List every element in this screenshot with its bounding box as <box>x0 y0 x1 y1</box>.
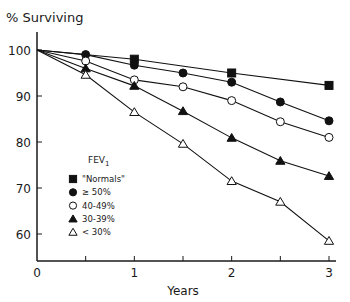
legend-label-1: ≥ 50% <box>82 187 111 197</box>
x-axis-label: Years <box>166 284 199 298</box>
series-line-2 <box>37 50 329 137</box>
data-point-3 <box>178 107 187 115</box>
legend-title-text: FEV <box>88 155 106 165</box>
legend-marker-4 <box>69 228 77 235</box>
data-point-1 <box>276 98 284 106</box>
x-tick-label: 0 <box>33 266 41 280</box>
legend-label-0: "Normals" <box>82 174 125 184</box>
survival-chart: % Surviving Years 10090807060 0123 FEV1 … <box>0 0 350 302</box>
data-point-0 <box>228 69 236 77</box>
data-point-3 <box>227 133 236 141</box>
legend-label-2: 40-49% <box>82 201 115 211</box>
data-point-2 <box>179 83 187 91</box>
y-tick-label: 100 <box>8 44 31 58</box>
x-tick-label: 3 <box>325 266 333 280</box>
legend-marker-2 <box>69 202 76 209</box>
data-point-2 <box>325 133 333 141</box>
data-point-2 <box>276 118 284 126</box>
data-point-1 <box>130 61 138 69</box>
x-tick-label: 2 <box>228 266 236 280</box>
data-point-1 <box>179 69 187 77</box>
y-tick-label: 90 <box>16 90 31 104</box>
legend-title: FEV1 <box>88 155 110 168</box>
legend-title-subscript: 1 <box>105 160 109 168</box>
data-point-4 <box>130 108 139 116</box>
y-tick-label: 80 <box>16 136 31 150</box>
y-tick-label: 60 <box>16 228 31 242</box>
legend-marker-1 <box>69 189 76 196</box>
y-tick-label: 70 <box>16 182 31 196</box>
data-point-3 <box>276 156 285 164</box>
data-point-1 <box>325 117 333 125</box>
data-point-1 <box>228 78 236 86</box>
data-point-0 <box>325 81 333 89</box>
x-tick-label: 1 <box>131 266 139 280</box>
data-point-2 <box>228 97 236 105</box>
data-point-4 <box>178 139 187 147</box>
legend-marker-0 <box>69 175 76 182</box>
legend: FEV1 "Normals"≥ 50%40-49%30-39%< 30% <box>69 155 125 237</box>
data-point-4 <box>276 197 285 205</box>
series-line-0 <box>37 50 329 85</box>
legend-label-4: < 30% <box>82 227 111 237</box>
legend-label-3: 30-39% <box>82 214 115 224</box>
legend-marker-3 <box>69 215 77 222</box>
data-point-4 <box>227 177 236 185</box>
y-axis-label: % Surviving <box>6 10 83 25</box>
